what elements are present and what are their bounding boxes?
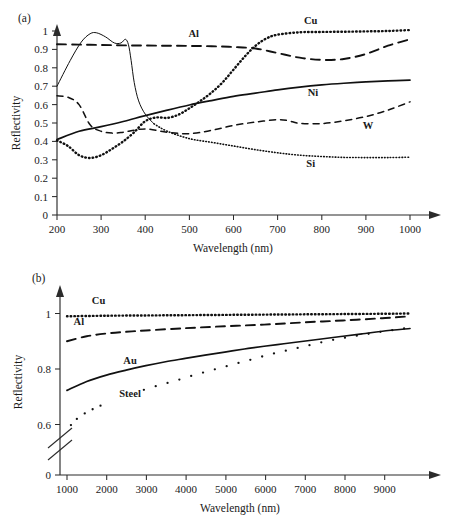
y-tick-label: 0.8	[37, 363, 51, 375]
y-tick-label: 1	[43, 25, 49, 37]
curve-steel-marker	[99, 404, 101, 406]
curve-steel-marker	[166, 382, 168, 384]
panel-a-x-axis-arrow	[429, 211, 441, 219]
curve-w	[57, 96, 410, 134]
panel-a-y-ticks	[52, 31, 57, 215]
curve-steel-marker	[403, 327, 405, 329]
panel-a-x-axis-title: Wavelength (nm)	[193, 242, 273, 255]
y-tick-label: 0.7	[34, 80, 48, 92]
y-tick-label: 0.9	[34, 43, 48, 55]
panel-a-svg: (a) 0 0.1 0.	[0, 0, 460, 262]
curve-label-w: W	[363, 120, 374, 131]
curve-steel-marker	[367, 333, 369, 335]
curve-steel-marker	[226, 365, 228, 367]
chart-panel-b: (b) 0 0.6 0.8 1	[0, 262, 460, 524]
curve-steel-marker	[308, 344, 310, 346]
curve-cu	[57, 30, 410, 158]
x-tick-label: 2000	[96, 483, 119, 495]
y-tick-label: 0	[46, 469, 52, 481]
panel-b-label: (b)	[32, 272, 46, 285]
x-tick-label: 5000	[215, 483, 238, 495]
curve-steel-marker	[143, 389, 145, 391]
curve-steel-marker	[155, 385, 157, 387]
panel-a-label: (a)	[18, 12, 31, 25]
y-tick-label: 0.1	[34, 191, 48, 203]
y-tick-label: 0.6	[37, 419, 51, 431]
curve-steel-marker	[249, 359, 251, 361]
panel-b-x-ticks	[67, 475, 385, 480]
panel-a-y-axis-arrow	[53, 24, 61, 36]
curve-steel-marker	[202, 371, 204, 373]
curve-steel-marker	[91, 408, 93, 410]
curve-steel-marker	[332, 339, 334, 341]
panel-b-x-axis-title: Wavelength (nm)	[200, 502, 280, 515]
curve-steel-marker	[296, 347, 298, 349]
x-tick-label: 200	[49, 223, 66, 235]
x-tick-label: 3000	[135, 483, 158, 495]
curve-label-steel: Steel	[119, 388, 141, 399]
panel-b-y-tick-labels: 0 0.6 0.8 1	[37, 308, 51, 482]
y-tick-label: 0.6	[34, 99, 48, 111]
x-tick-label: 8000	[334, 483, 357, 495]
x-tick-label: 900	[358, 223, 375, 235]
curve-label-al: Al	[189, 28, 200, 39]
x-tick-label: 500	[181, 223, 198, 235]
curve-steel-marker	[261, 355, 263, 357]
x-tick-label: 800	[314, 223, 331, 235]
x-tick-label: 300	[93, 223, 110, 235]
x-tick-label: 600	[225, 223, 242, 235]
chart-panel-a: (a) 0 0.1 0.	[0, 0, 460, 262]
x-tick-label: 9000	[374, 483, 397, 495]
curve-cu	[67, 314, 410, 317]
curve-ni	[57, 80, 410, 139]
panel-a-curves	[57, 30, 410, 158]
curve-steel-marker	[273, 352, 275, 354]
curve-au	[67, 328, 410, 390]
y-tick-label: 0.5	[34, 117, 48, 129]
curve-steel-marker	[84, 412, 86, 414]
curve-al	[67, 316, 410, 341]
y-tick-label: 0.8	[34, 62, 48, 74]
panel-a-y-tick-labels: 0 0.1 0.2 0.3 0.4 0.5 0.6 0.7 0.8 0.9 1	[34, 25, 48, 221]
x-tick-label: 700	[269, 223, 286, 235]
y-tick-label: 1	[46, 308, 52, 320]
panel-a-y-axis-title: Reflectivity	[10, 96, 23, 151]
curve-label-ni: Ni	[308, 87, 319, 98]
panel-b-curves	[67, 314, 410, 427]
curve-label-cu: Cu	[304, 15, 318, 26]
curve-al	[57, 39, 410, 60]
curve-label-au: Au	[123, 355, 137, 366]
curve-steel-marker	[356, 335, 358, 337]
y-tick-label: 0.3	[34, 154, 48, 166]
curve-steel-marker	[214, 368, 216, 370]
x-tick-label: 6000	[255, 483, 278, 495]
y-tick-label: 0	[43, 209, 49, 221]
curve-steel-marker	[76, 418, 78, 420]
x-tick-label: 400	[137, 223, 154, 235]
reflectivity-figure: (a) 0 0.1 0.	[0, 0, 460, 524]
curve-steel-marker	[391, 329, 393, 331]
curve-label-si: Si	[306, 158, 315, 169]
curve-steel-marker	[285, 350, 287, 352]
curve-steel-marker	[379, 331, 381, 333]
y-tick-label: 0.4	[34, 135, 48, 147]
curve-steel-marker	[190, 375, 192, 377]
panel-a-curve-labels: AlCuNiWSi	[189, 15, 374, 169]
panel-b-x-axis-arrow	[429, 471, 441, 479]
x-tick-label: 4000	[175, 483, 198, 495]
panel-a-x-tick-labels: 200 300 400 500 600 700 800 900 1000	[49, 223, 422, 235]
panel-b-x-tick-labels: 1000 2000 3000 4000 5000 6000 7000 8000 …	[56, 483, 396, 495]
curve-steel-marker	[344, 336, 346, 338]
panel-b-y-axis-title: Reflectivity	[12, 355, 25, 410]
y-tick-label: 0.2	[34, 172, 48, 184]
curve-label-al: Al	[74, 316, 85, 327]
panel-a-x-ticks	[57, 215, 410, 220]
x-tick-label: 1000	[56, 483, 79, 495]
curve-steel-marker	[178, 378, 180, 380]
curve-steel-marker	[320, 341, 322, 343]
panel-b-svg: (b) 0 0.6 0.8 1	[0, 262, 460, 524]
curve-label-cu: Cu	[92, 295, 106, 306]
x-tick-label: 7000	[294, 483, 317, 495]
x-tick-label: 1000	[399, 223, 422, 235]
panel-b-y-axis-arrow	[56, 285, 64, 297]
